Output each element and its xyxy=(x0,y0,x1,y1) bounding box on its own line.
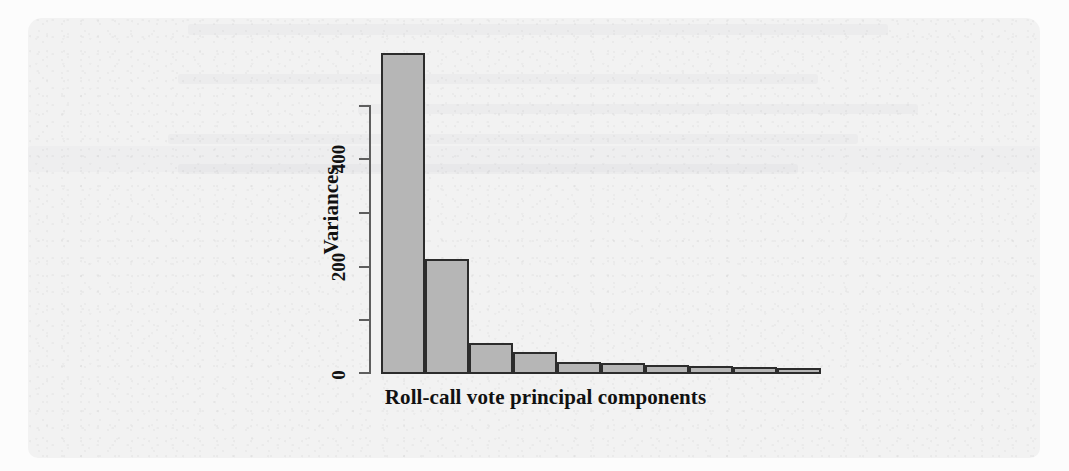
bar-6 xyxy=(601,363,645,374)
bar-9 xyxy=(733,367,777,374)
x-axis-title: Roll-call vote principal components xyxy=(0,385,1069,410)
bar-1 xyxy=(381,53,425,374)
x-axis-title-text: Roll-call vote principal components xyxy=(385,385,706,409)
bar-8 xyxy=(689,366,733,374)
plot-area: Variances 400 200 0 xyxy=(0,0,1069,471)
bar-7 xyxy=(645,365,689,374)
bar-2 xyxy=(425,259,469,374)
bar-5 xyxy=(557,362,601,374)
screenshot-root: Variances 400 200 0 xyxy=(0,0,1069,471)
bar-10 xyxy=(777,368,821,374)
bar-3 xyxy=(469,343,513,374)
bar-4 xyxy=(513,352,557,374)
